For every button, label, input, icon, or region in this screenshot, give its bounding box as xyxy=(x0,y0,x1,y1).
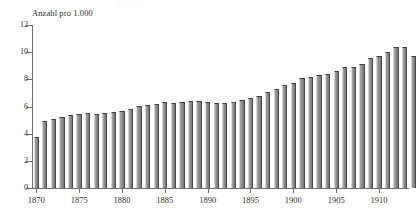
bar xyxy=(376,56,381,188)
bar xyxy=(179,102,184,188)
bar xyxy=(59,117,64,188)
bar xyxy=(128,109,133,188)
bar xyxy=(248,98,253,188)
x-tick-mark xyxy=(336,188,337,193)
x-tick-mark xyxy=(79,188,80,193)
bar xyxy=(274,89,279,188)
bar xyxy=(205,102,210,188)
bar xyxy=(111,112,116,188)
bar xyxy=(316,75,321,188)
bar xyxy=(162,102,167,188)
x-tick-label: 1885 xyxy=(148,196,182,205)
bar xyxy=(239,100,244,188)
bar xyxy=(368,58,373,188)
x-tick-label: 1870 xyxy=(19,196,53,205)
x-tick-label: 1880 xyxy=(105,196,139,205)
x-tick-label: 1890 xyxy=(191,196,225,205)
plot-area xyxy=(32,25,409,188)
bar xyxy=(402,47,407,188)
bar xyxy=(282,85,287,188)
y-tick-label: 6 xyxy=(0,103,28,111)
y-tick-label: 2 xyxy=(0,157,28,165)
x-tick-label: 1910 xyxy=(362,196,396,205)
bar xyxy=(68,115,73,188)
bar xyxy=(351,67,356,188)
bar xyxy=(325,74,330,188)
bar xyxy=(231,102,236,188)
bar xyxy=(359,64,364,188)
x-tick-label: 1875 xyxy=(62,196,96,205)
bar xyxy=(171,103,176,188)
y-axis-title: Anzahl pro 1.000 xyxy=(32,8,93,18)
bar xyxy=(411,56,416,188)
y-tick-label: 12 xyxy=(0,21,28,29)
bar xyxy=(214,103,219,188)
x-tick-label: 1895 xyxy=(233,196,267,205)
bar xyxy=(145,105,150,188)
bar xyxy=(34,137,39,188)
x-axis-line xyxy=(26,188,409,189)
bar xyxy=(393,47,398,188)
bar xyxy=(85,113,90,188)
bar xyxy=(154,104,159,188)
bar xyxy=(136,106,141,188)
bar xyxy=(76,114,81,188)
x-tick-mark xyxy=(208,188,209,193)
bar xyxy=(256,96,261,188)
bar xyxy=(42,121,47,188)
bar xyxy=(291,83,296,188)
clipped-caption-text: . . . . . . xyxy=(118,0,398,3)
bar xyxy=(308,77,313,188)
y-tick-label: 10 xyxy=(0,48,28,56)
bar xyxy=(119,111,124,188)
bar xyxy=(265,92,270,188)
bar xyxy=(299,78,304,188)
bar xyxy=(385,52,390,189)
bar xyxy=(342,67,347,188)
x-tick-mark xyxy=(36,188,37,193)
x-tick-mark xyxy=(250,188,251,193)
bar xyxy=(196,101,201,188)
x-tick-label: 1900 xyxy=(276,196,310,205)
bar xyxy=(102,113,107,188)
x-tick-mark xyxy=(165,188,166,193)
x-tick-mark xyxy=(379,188,380,193)
x-tick-label: 1905 xyxy=(319,196,353,205)
y-tick-label: 8 xyxy=(0,75,28,83)
bar xyxy=(222,103,227,188)
y-tick-label: 0 xyxy=(0,184,28,192)
bar xyxy=(188,101,193,188)
bar xyxy=(334,71,339,188)
y-tick-label: 4 xyxy=(0,130,28,138)
bar xyxy=(94,114,99,188)
bar xyxy=(51,119,56,188)
x-tick-mark xyxy=(293,188,294,193)
x-tick-mark xyxy=(122,188,123,193)
